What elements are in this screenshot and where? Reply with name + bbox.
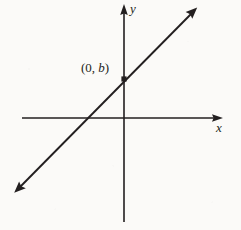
y-axis-label: y <box>130 2 136 15</box>
y-axis <box>120 4 128 222</box>
y-intercept-label-prefix: (0, <box>81 60 98 75</box>
graph-canvas <box>0 0 241 230</box>
y-intercept-label-suffix: ) <box>105 60 109 75</box>
y-intercept-label: (0, b) <box>81 61 109 74</box>
y-axis-arrow-icon <box>120 4 128 15</box>
y-intercept-marker <box>121 76 126 81</box>
plotted-line <box>14 8 197 193</box>
plotted-line-segment <box>20 13 193 188</box>
x-axis-label: x <box>216 121 222 134</box>
x-axis <box>22 114 223 122</box>
coordinate-plane-figure: (0, b) y x <box>0 0 241 230</box>
